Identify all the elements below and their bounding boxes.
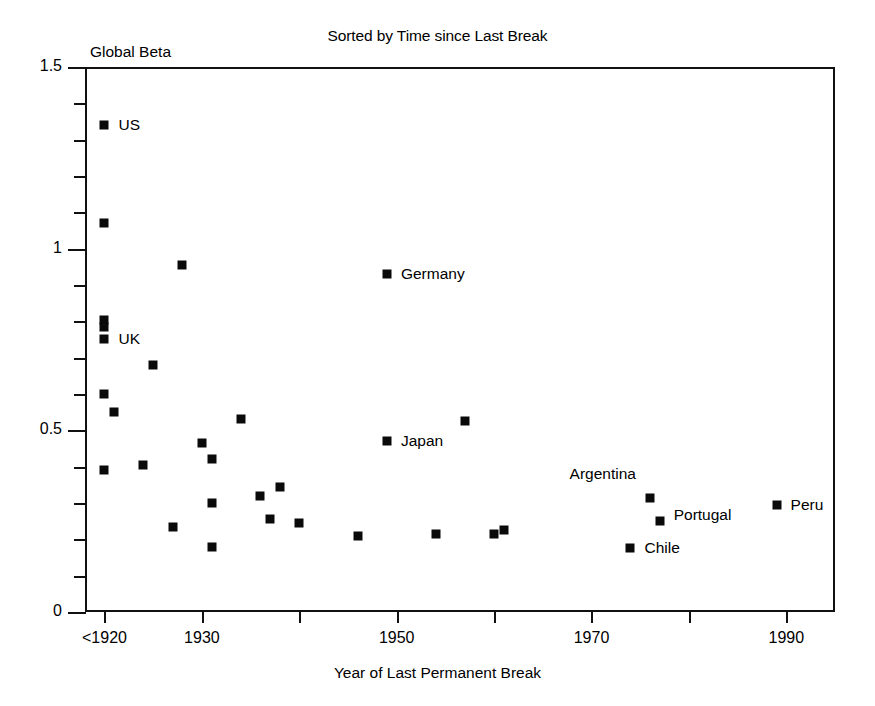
x-axis-tick-label: 1930 [184, 629, 220, 647]
x-axis-tick [397, 612, 399, 623]
data-point-germany [382, 270, 391, 279]
data-point [353, 531, 362, 540]
data-point [168, 522, 177, 531]
data-point [207, 455, 216, 464]
x-axis-label: Year of Last Permanent Break [0, 664, 875, 682]
y-axis-tick-major [68, 67, 86, 69]
data-point [139, 460, 148, 469]
x-axis-tick-label: 1990 [769, 629, 805, 647]
x-axis-tick-minor [299, 612, 301, 623]
y-axis-tick-label: 1 [4, 240, 62, 256]
data-point [207, 499, 216, 508]
data-point-japan [382, 437, 391, 446]
data-point [100, 322, 109, 331]
data-point-label-japan: Japan [401, 432, 443, 450]
data-point-label-uk: UK [118, 330, 140, 348]
x-axis-tick [202, 612, 204, 623]
y-axis-tick-label: 0 [4, 603, 62, 619]
x-axis-tick-label: 1950 [379, 629, 415, 647]
data-point-label-portugal: Portugal [674, 506, 732, 524]
x-axis-tick-minor [494, 612, 496, 623]
data-point-argentina [645, 493, 654, 502]
data-point [490, 529, 499, 538]
y-axis-tick-label: 0.5 [4, 421, 62, 437]
y-axis-tick-label: 1.5 [4, 58, 62, 74]
data-point [178, 261, 187, 270]
y-axis-tick-major [68, 249, 86, 251]
x-axis-tick-minor [689, 612, 691, 623]
data-point-uk [100, 334, 109, 343]
data-point-label-us: US [118, 116, 140, 134]
data-point-label-germany: Germany [401, 265, 465, 283]
data-point-portugal [655, 517, 664, 526]
data-point [207, 542, 216, 551]
data-point [236, 415, 245, 424]
data-point-label-chile: Chile [644, 539, 679, 557]
data-point [431, 529, 440, 538]
data-point [100, 219, 109, 228]
data-point [295, 518, 304, 527]
x-axis-tick [104, 612, 106, 623]
y-axis-tick-major [68, 612, 86, 614]
data-point [275, 482, 284, 491]
scatter-chart-figure: Sorted by Time since Last Break Global B… [0, 0, 875, 706]
data-point [110, 408, 119, 417]
data-point [499, 526, 508, 535]
x-axis-tick [786, 612, 788, 623]
data-point-us [100, 121, 109, 130]
data-point-label-peru: Peru [791, 496, 824, 514]
data-point-peru [772, 500, 781, 509]
x-axis-tick [591, 612, 593, 623]
data-point [197, 439, 206, 448]
x-axis-tick-label: <1920 [82, 629, 127, 647]
data-point [149, 360, 158, 369]
x-axis-tick-label: 1970 [574, 629, 610, 647]
data-point [100, 390, 109, 399]
plot-frame [85, 67, 835, 612]
y-axis-label: Global Beta [90, 43, 171, 61]
data-point [266, 515, 275, 524]
data-point-chile [626, 544, 635, 553]
data-point-label-argentina: Argentina [570, 465, 636, 483]
data-point [256, 491, 265, 500]
data-point [460, 417, 469, 426]
data-point [100, 466, 109, 475]
y-axis-tick-major [68, 430, 86, 432]
